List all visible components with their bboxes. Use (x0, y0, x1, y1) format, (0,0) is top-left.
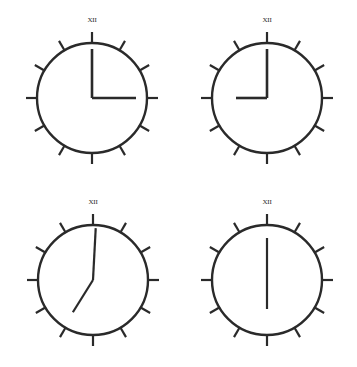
hour-tick-7 (234, 327, 240, 337)
hour-tick-7 (59, 145, 65, 155)
hour-tick-7 (234, 145, 240, 155)
hour-tick-2 (314, 247, 324, 253)
hour-tick-4 (314, 307, 324, 313)
numeral-xii: XII (88, 198, 98, 206)
clock-bottom-right: XII (185, 198, 349, 362)
clock-top-left: XII (10, 16, 174, 180)
hour-tick-10 (210, 65, 220, 71)
hour-tick-1 (119, 41, 125, 51)
hour-tick-5 (294, 145, 300, 155)
numeral-xii: XII (262, 198, 272, 206)
hour-tick-5 (294, 327, 300, 337)
hour-tick-2 (139, 65, 149, 71)
numeral-xii: XII (262, 16, 272, 24)
hour-tick-11 (60, 223, 66, 233)
hour-tick-8 (210, 307, 220, 313)
hour-tick-5 (120, 327, 126, 337)
hour-tick-10 (35, 65, 45, 71)
clock-bottom-left: XII (11, 198, 175, 362)
hour-tick-1 (294, 223, 300, 233)
hour-tick-8 (36, 307, 46, 313)
hour-tick-8 (210, 125, 220, 131)
hour-tick-4 (139, 125, 149, 131)
clock-figure: XIIXIIXIIXII (0, 0, 357, 367)
hour-tick-5 (119, 145, 125, 155)
hour-tick-11 (59, 41, 65, 51)
hour-tick-8 (35, 125, 45, 131)
hour-tick-10 (36, 247, 46, 253)
numeral-xii: XII (87, 16, 97, 24)
hour-tick-4 (314, 125, 324, 131)
clock-grid: XIIXIIXIIXII (0, 0, 357, 367)
hour-tick-2 (140, 247, 150, 253)
hour-tick-7 (60, 327, 66, 337)
clock-top-right: XII (185, 16, 349, 180)
hour-tick-10 (210, 247, 220, 253)
hour-tick-2 (314, 65, 324, 71)
hour-tick-1 (294, 41, 300, 51)
hour-tick-11 (234, 41, 240, 51)
hour-tick-11 (234, 223, 240, 233)
hour-tick-4 (140, 307, 150, 313)
hour-tick-1 (120, 223, 126, 233)
